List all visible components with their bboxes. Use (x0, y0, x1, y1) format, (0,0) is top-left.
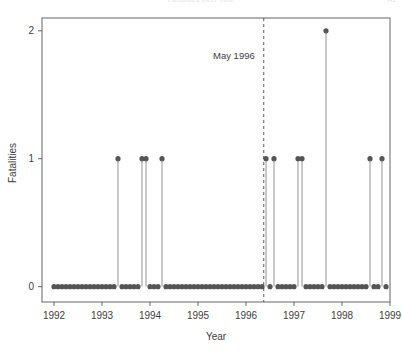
data-point (319, 284, 324, 289)
data-point (267, 284, 272, 289)
chart-annotations: May 1996 (213, 18, 264, 302)
data-point (299, 156, 304, 161)
x-tick-label: 1992 (43, 310, 66, 321)
x-tick-label: 1997 (283, 310, 306, 321)
x-axis-title: Year (206, 331, 227, 342)
data-point (135, 284, 140, 289)
data-point (143, 156, 148, 161)
data-stems (118, 31, 382, 287)
x-tick-label: 1993 (91, 310, 114, 321)
cropped-page-title: Fatalities over time (0, 0, 402, 3)
x-tick-label: 1995 (187, 310, 210, 321)
y-tick-label: 1 (28, 153, 34, 164)
data-point (291, 284, 296, 289)
cropped-corner-text: A1 (387, 0, 396, 3)
x-tick-label: 1994 (139, 310, 162, 321)
y-axis-title: Fatalities (7, 143, 18, 183)
annotation-label: May 1996 (213, 50, 255, 61)
x-tick-label: 1996 (235, 310, 258, 321)
data-point (111, 284, 116, 289)
data-point (375, 284, 380, 289)
data-point (363, 284, 368, 289)
x-axis: 19921993199419951996199719981999 (43, 302, 402, 321)
data-point (271, 156, 276, 161)
y-tick-label: 0 (28, 281, 34, 292)
data-point (383, 284, 388, 289)
data-point (155, 284, 160, 289)
data-point (323, 28, 328, 33)
x-tick-label: 1998 (331, 310, 354, 321)
y-axis: 012 (28, 25, 42, 292)
y-tick-label: 2 (28, 25, 34, 36)
data-points (51, 28, 388, 289)
data-point (367, 156, 372, 161)
data-point (115, 156, 120, 161)
data-point (379, 156, 384, 161)
fatalities-scatter-chart: 012 19921993199419951996199719981999 May… (0, 0, 402, 351)
figure-container: Fatalities over time A1 012 199219931994… (0, 0, 402, 351)
data-point (159, 156, 164, 161)
x-tick-label: 1999 (379, 310, 402, 321)
